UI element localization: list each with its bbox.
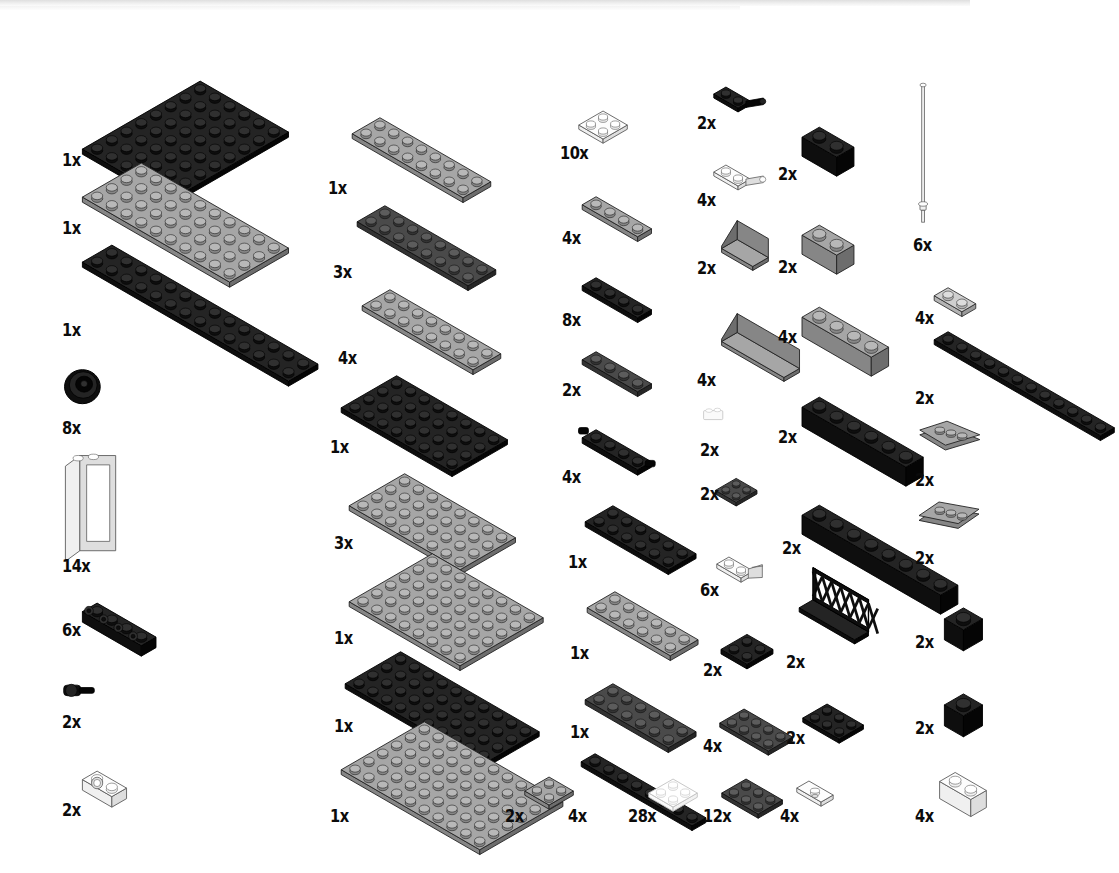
- part-quantity-label: 2x: [915, 632, 934, 652]
- part-illustration: [915, 310, 1119, 460]
- part-illustration: [918, 748, 1008, 838]
- part-illustration: [915, 494, 985, 536]
- part-quantity-label: 2x: [915, 470, 934, 490]
- part-quantity-label: 4x: [915, 308, 934, 328]
- part-illustration: [918, 578, 1009, 677]
- part-quantity-label: 4x: [915, 806, 934, 826]
- part-quantity-label: 2x: [915, 388, 934, 408]
- part-quantity-label: 6x: [913, 235, 932, 255]
- part-illustration: [913, 78, 935, 224]
- part-illustration: [915, 266, 995, 336]
- part-illustration: [918, 664, 1009, 763]
- part-quantity-label: 2x: [915, 548, 934, 568]
- part-illustration: [915, 414, 985, 456]
- part-quantity-label: 2x: [915, 718, 934, 738]
